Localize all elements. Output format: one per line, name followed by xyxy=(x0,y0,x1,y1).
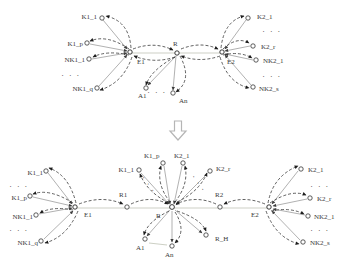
node-nk2-s xyxy=(251,85,255,89)
merge-diagram-figure: K1_1 K1_p NK1_1 · · · NK1_q E1 R E2 K2_1… xyxy=(0,0,349,268)
label-e2: E2 xyxy=(227,58,235,66)
node-k1-1 xyxy=(100,16,104,20)
label-e2: E2 xyxy=(251,211,259,219)
node-nk2-1 xyxy=(254,58,258,62)
label-k2-1: K2_1 xyxy=(257,13,273,21)
node-r-h xyxy=(204,233,208,237)
label-center-k2-r: K2_r xyxy=(216,165,231,173)
node-nk1-1 xyxy=(34,213,38,217)
ellipsis-bottom-right-1: · · · xyxy=(310,182,330,191)
ellipsis-center-left: · · · xyxy=(139,174,158,195)
node-k2-r xyxy=(251,44,255,48)
label-e1: E1 xyxy=(137,58,145,66)
node-center-k2-1 xyxy=(181,161,185,165)
label-nk2-s: NK2_s xyxy=(310,239,330,247)
label-an: An xyxy=(179,97,188,105)
ellipsis-bottom-right-2: · · · xyxy=(310,226,330,235)
ellipsis-top-right-2: · · · xyxy=(262,72,282,81)
node-k2-1 xyxy=(246,16,250,20)
a1-an-link xyxy=(149,243,167,245)
node-r xyxy=(170,205,175,210)
label-center-k1-p: K1_p xyxy=(144,152,160,160)
node-nk2-s xyxy=(301,240,305,244)
node-r xyxy=(175,51,179,55)
node-an xyxy=(170,244,174,248)
label-k2-r: K2_r xyxy=(261,43,276,51)
node-center-k1-p xyxy=(161,161,165,165)
label-center-k2-1: K2_1 xyxy=(174,152,190,160)
label-r1: R1 xyxy=(119,191,128,199)
label-k1-1: K1_1 xyxy=(81,13,97,21)
label-nk2-s: NK2_s xyxy=(259,85,279,93)
label-k2-1: K2_1 xyxy=(308,166,324,174)
bottom-diagram: K1_1 · · · K1_p NK1_1 · · · NK1_q E1 R1 … xyxy=(9,152,335,259)
label-a1: A1 xyxy=(138,92,147,100)
label-r: R xyxy=(173,40,178,48)
node-center-k2-r xyxy=(208,169,212,173)
node-k1-1 xyxy=(44,169,48,173)
node-e1 xyxy=(128,50,132,54)
label-nk1-q: NK1_q xyxy=(72,85,93,93)
label-e1: E1 xyxy=(84,211,92,219)
label-nk1-1: NK1_1 xyxy=(64,56,85,64)
bottom-solid-edges xyxy=(33,166,307,242)
diagram-canvas: K1_1 K1_p NK1_1 · · · NK1_q E1 R E2 K2_1… xyxy=(0,0,349,268)
label-k1-1: K1_1 xyxy=(27,169,43,177)
node-nk1-1 xyxy=(87,57,91,61)
node-nk1-q xyxy=(39,239,43,243)
label-r2: R2 xyxy=(215,191,224,199)
node-k2-r xyxy=(308,196,312,200)
top-solid-edges xyxy=(90,20,253,90)
ellipsis-bottom-left-1: · · · xyxy=(9,182,29,191)
node-a1 xyxy=(143,237,147,241)
label-nk1-1: NK1_1 xyxy=(12,213,33,221)
label-center-k1-1: K1_1 xyxy=(118,166,134,174)
bottom-nodes xyxy=(28,161,312,248)
down-arrow-icon xyxy=(170,121,186,140)
node-e2 xyxy=(267,205,271,209)
node-k1-p xyxy=(85,41,89,45)
node-e1 xyxy=(73,205,77,209)
node-r1 xyxy=(125,205,129,209)
label-k2-r: K2_r xyxy=(317,195,332,203)
transform-arrow xyxy=(170,121,186,140)
node-center-k1-1 xyxy=(137,168,141,172)
ellipsis-top-a: · · · xyxy=(147,88,167,97)
node-r2 xyxy=(218,205,222,209)
node-k1-p xyxy=(28,194,32,198)
ellipsis-top-left: · · · xyxy=(61,71,81,80)
label-r-h: R_H xyxy=(215,235,228,243)
node-nk1-q xyxy=(95,86,99,90)
label-k1-p: K1_p xyxy=(11,194,27,202)
top-dashed-edges xyxy=(90,16,252,92)
label-nk1-q: NK1_q xyxy=(17,239,38,247)
ellipsis-bottom-left-2: · · · xyxy=(9,226,29,235)
label-an: An xyxy=(165,251,174,259)
node-an xyxy=(171,91,175,95)
label-nk2-1: NK2_1 xyxy=(263,57,284,65)
ellipsis-top-right-1: · · · xyxy=(262,27,282,36)
label-nk2-1: NK2_1 xyxy=(314,213,335,221)
top-diagram: K1_1 K1_p NK1_1 · · · NK1_q E1 R E2 K2_1… xyxy=(61,13,284,105)
node-nk2-1 xyxy=(306,214,310,218)
node-k2-1 xyxy=(299,167,303,171)
node-e2 xyxy=(220,50,224,54)
label-k1-p: K1_p xyxy=(67,40,83,48)
label-r: R xyxy=(156,212,161,220)
label-a1: A1 xyxy=(136,244,145,252)
